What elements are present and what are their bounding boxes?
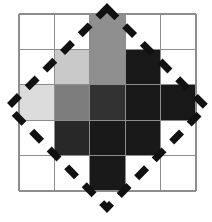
grid-cell-r4-c0 xyxy=(19,156,54,191)
grid-cell-r4-c2 xyxy=(90,156,125,191)
grid-cell-r0-c2 xyxy=(90,14,125,49)
grid-cell-r3-c3 xyxy=(125,120,160,155)
grid-cell-r4-c4 xyxy=(161,156,196,191)
grid-cell-r3-c2 xyxy=(90,120,125,155)
grid-cell-r1-c2 xyxy=(90,49,125,84)
grid-cell-r0-c4 xyxy=(161,14,196,49)
grid-diamond-figure xyxy=(0,0,212,222)
grid-cell-r3-c1 xyxy=(54,120,89,155)
figure-container xyxy=(0,0,212,222)
grid-cell-r2-c4 xyxy=(161,85,196,120)
grid-cell-r2-c3 xyxy=(125,85,160,120)
grid-cell-r1-c3 xyxy=(125,49,160,84)
grid-cell-r2-c0 xyxy=(19,85,54,120)
grid-cell-layer xyxy=(19,14,196,191)
grid-cell-r2-c2 xyxy=(90,85,125,120)
grid-cell-r1-c1 xyxy=(54,49,89,84)
grid-cell-r2-c1 xyxy=(54,85,89,120)
grid-cell-r0-c0 xyxy=(19,14,54,49)
